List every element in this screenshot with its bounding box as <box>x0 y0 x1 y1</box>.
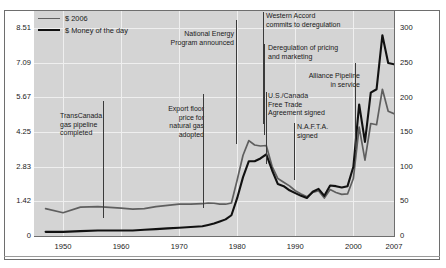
x-axis-baseline <box>4 256 440 257</box>
legend: $ 2006$ Money of the day <box>38 13 128 37</box>
x-axis: 1950196019701980199020002007 <box>34 238 394 258</box>
y-axis-right: 050100150200250300 <box>394 11 440 236</box>
y-axis-left-tick-label: 0 <box>27 231 31 240</box>
x-axis-tick-label: 2007 <box>386 242 403 251</box>
x-axis-tick-label: 1980 <box>229 242 246 251</box>
y-axis-right-tick-label: 200 <box>400 93 413 102</box>
y-axis-left-tick-label: 7.09 <box>16 58 31 67</box>
annotation-label-deregulation-pricing: Deregulation of pricing and marketing <box>268 44 338 61</box>
chart-figure: 01.422.834.255.677.098.51 05010015020025… <box>0 0 446 268</box>
annotation-label-alliance-pipeline: Alliance Pipeline in service <box>296 72 360 89</box>
legend-item-label: $ 2006 <box>65 14 88 23</box>
x-axis-tick-label: 1970 <box>171 242 188 251</box>
annotation-label-export-floor: Export floor price for natural gas adopt… <box>140 105 204 139</box>
y-axis-left-tick-label: 5.67 <box>16 92 31 101</box>
annotation-label-us-canada-fta: U.S./Canada Free Trade Agreement signed <box>268 92 325 118</box>
annotation-leader-alliance-pipeline <box>355 63 356 150</box>
x-axis-tick-label: 2000 <box>345 242 362 251</box>
y-axis-left: 01.422.834.255.677.098.51 <box>4 11 34 236</box>
annotation-leader-nafta <box>294 123 295 180</box>
annotation-leader-national-energy-program <box>236 20 237 144</box>
y-axis-right-tick-label: 150 <box>400 127 413 136</box>
annotation-label-nafta: N.A.F.T.A. signed <box>297 123 328 140</box>
annotation-leader-export-floor <box>203 94 204 208</box>
annotation-label-western-accord: Western Accord commits to deregulation <box>266 12 340 29</box>
legend-item: $ 2006 <box>38 13 128 23</box>
legend-swatch-icon <box>38 18 60 19</box>
y-axis-right-tick-label: 50 <box>400 196 408 205</box>
legend-item: $ Money of the day <box>38 25 128 35</box>
y-axis-right-tick-label: 250 <box>400 58 413 67</box>
annotation-leader-us-canada-fta <box>266 92 267 164</box>
legend-swatch-icon <box>38 29 60 31</box>
y-axis-right-tick-label: 0 <box>400 231 404 240</box>
annotation-leader-transcanada <box>103 101 104 218</box>
y-axis-left-tick-label: 4.25 <box>16 127 31 136</box>
y-axis-right-tick-label: 100 <box>400 162 413 171</box>
y-axis-left-tick-label: 2.83 <box>16 162 31 171</box>
series-line-1 <box>46 89 394 213</box>
y-axis-left-tick-label: 1.42 <box>16 196 31 205</box>
x-axis-tick-label: 1950 <box>55 242 72 251</box>
annotation-label-national-energy-program: National Energy Program announced <box>170 30 234 47</box>
annotation-leader-deregulation-pricing <box>264 44 265 135</box>
x-axis-tick-label: 1990 <box>287 242 304 251</box>
y-axis-right-tick-label: 300 <box>400 23 413 32</box>
x-axis-rule <box>34 236 394 237</box>
annotation-label-transcanada: TransCanada gas pipeline completed <box>60 112 102 138</box>
x-axis-tick-label: 1960 <box>113 242 130 251</box>
legend-item-label: $ Money of the day <box>65 26 128 35</box>
y-axis-left-tick-label: 8.51 <box>16 23 31 32</box>
